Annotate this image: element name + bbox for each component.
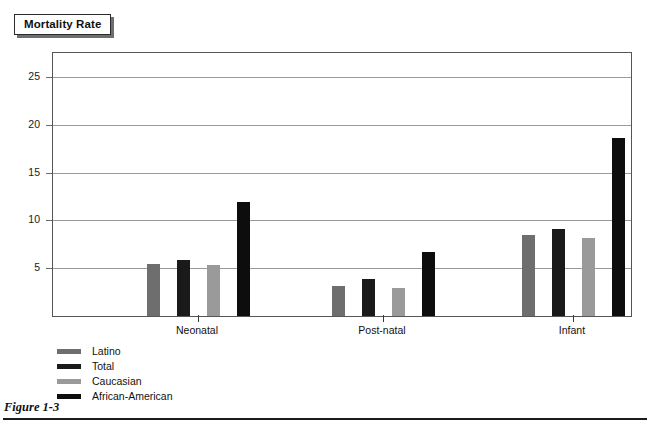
bar-post-natal-african-american	[422, 252, 435, 316]
legend-label: Caucasian	[92, 375, 142, 387]
bar-neonatal-african-american	[237, 202, 250, 316]
caption-divider	[3, 418, 647, 420]
bar-post-natal-latino	[332, 286, 345, 316]
legend-item-latino: Latino	[57, 344, 173, 358]
y-tick-mark-5	[46, 268, 52, 269]
y-tick-label-25: 25	[14, 70, 40, 82]
y-tick-mark-15	[46, 173, 52, 174]
y-tick-label-15: 15	[14, 166, 40, 178]
category-tick-0	[198, 315, 199, 322]
bar-infant-african-american	[612, 138, 625, 316]
legend-item-african-american: African-American	[57, 389, 173, 403]
bar-neonatal-latino	[147, 264, 160, 316]
gridline-15	[53, 173, 631, 174]
gridline-10	[53, 220, 631, 221]
y-tick-mark-25	[46, 77, 52, 78]
legend-swatch-icon	[57, 364, 81, 369]
legend-swatch-icon	[57, 394, 81, 399]
legend-label: Latino	[92, 345, 121, 357]
bar-neonatal-total	[177, 260, 190, 316]
legend-swatch-icon	[57, 379, 81, 384]
chart-title-box: Mortality Rate	[14, 14, 111, 35]
figure-caption: Figure 1-3	[4, 400, 59, 415]
y-tick-mark-20	[46, 125, 52, 126]
legend-item-caucasian: Caucasian	[57, 374, 173, 388]
y-tick-label-5: 5	[14, 261, 40, 273]
bar-infant-caucasian	[582, 238, 595, 316]
gridline-5	[53, 268, 631, 269]
gridline-25	[53, 77, 631, 78]
y-tick-label-20: 20	[14, 118, 40, 130]
category-label-neonatal: Neonatal	[176, 324, 218, 336]
category-tick-1	[383, 315, 384, 322]
bar-post-natal-total	[362, 279, 375, 316]
legend-label: African-American	[92, 390, 173, 402]
chart-legend: LatinoTotalCaucasianAfrican-American	[57, 344, 173, 404]
y-tick-label-10: 10	[14, 213, 40, 225]
bar-infant-latino	[522, 235, 535, 316]
y-tick-mark-10	[46, 220, 52, 221]
legend-label: Total	[92, 360, 114, 372]
bar-post-natal-caucasian	[392, 288, 405, 316]
legend-swatch-icon	[57, 349, 81, 354]
category-tick-2	[573, 315, 574, 322]
chart-plot-area	[52, 52, 632, 317]
bar-infant-total	[552, 229, 565, 316]
page-title: Mortality Rate	[24, 18, 101, 30]
bar-neonatal-caucasian	[207, 265, 220, 316]
legend-item-total: Total	[57, 359, 173, 373]
category-label-post-natal: Post-natal	[358, 324, 405, 336]
gridline-20	[53, 125, 631, 126]
category-label-infant: Infant	[559, 324, 585, 336]
